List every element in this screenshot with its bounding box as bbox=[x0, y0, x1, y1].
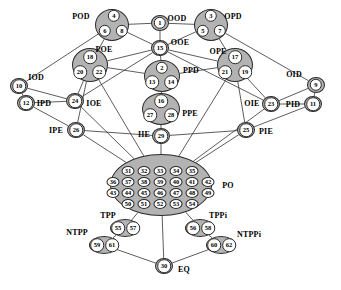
relation-label-ioe: IOE bbox=[86, 100, 101, 108]
relation-label-pod: POD bbox=[72, 13, 90, 21]
label-layer: OODPODOPDOOEPOEOPEPPDIODOIDPPEIPDIOEOIEP… bbox=[0, 0, 341, 290]
relation-label-opd: OPD bbox=[224, 13, 242, 21]
relation-label-ntppi: NTPPi bbox=[237, 231, 261, 239]
relation-label-ooe: OOE bbox=[171, 39, 189, 47]
relation-label-po: PO bbox=[222, 182, 234, 190]
relation-label-iod: IOD bbox=[28, 74, 44, 82]
rcc-lattice-diagram: 1468357151820221721192131410916272812242… bbox=[0, 0, 341, 290]
relation-label-ope: OPE bbox=[209, 48, 226, 56]
relation-label-ppd: PPD bbox=[183, 67, 199, 75]
relation-label-pie: PIE bbox=[259, 128, 273, 136]
relation-label-poe: POE bbox=[95, 46, 112, 54]
relation-label-ood: OOD bbox=[168, 15, 187, 23]
relation-label-tpp: TPP bbox=[100, 212, 116, 220]
relation-label-ipe: IPE bbox=[49, 127, 63, 135]
relation-label-ppe: PPE bbox=[182, 110, 198, 118]
relation-label-ntpp: NTPP bbox=[66, 229, 88, 237]
relation-label-oie: OIE bbox=[244, 100, 259, 108]
relation-label-iie: IIE bbox=[138, 131, 150, 139]
relation-label-tppi: TPPi bbox=[209, 212, 227, 220]
relation-label-eq: EQ bbox=[178, 266, 190, 274]
relation-label-pid: PID bbox=[286, 101, 300, 109]
relation-label-oid: OID bbox=[286, 71, 302, 79]
relation-label-ipd: IPD bbox=[37, 100, 51, 108]
